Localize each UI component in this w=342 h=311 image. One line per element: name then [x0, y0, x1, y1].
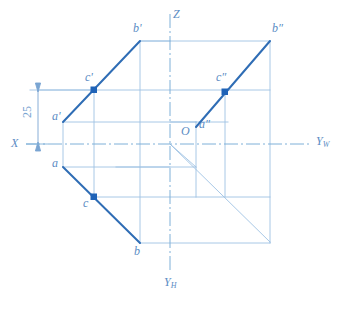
- point-label-b: b: [134, 245, 140, 257]
- segment-a-dprime-b-dprime: [196, 41, 270, 127]
- segment-a-b: [63, 167, 140, 243]
- axis-label-yh: YH: [164, 276, 176, 290]
- point-label-b-prime: b': [133, 22, 142, 34]
- axis-label-yw-sub: W: [323, 140, 330, 149]
- point-label-c-prime: c': [85, 71, 93, 83]
- axis-label-yh-sub: H: [171, 281, 177, 290]
- dimension-arrow-top: [35, 83, 40, 92]
- origin-label: O: [181, 125, 190, 137]
- mitre-line-45-short: [170, 144, 196, 167]
- axis-label-yh-main: Y: [164, 275, 171, 289]
- segment-a-prime-b-prime: [63, 41, 140, 122]
- axis-label-yw: YW: [316, 135, 329, 149]
- construction-lines: [30, 41, 270, 243]
- mitre-line-45: [170, 144, 270, 242]
- marker-c-dprime: [222, 89, 229, 96]
- drawing-canvas: X Z YW YH O 25 a' b' c' a b c a″ b″ c″: [0, 0, 342, 311]
- axis-label-yw-main: Y: [316, 134, 323, 148]
- point-label-a-prime: a': [52, 110, 61, 122]
- dimension-arrow-bottom: [35, 142, 40, 151]
- axis-label-z: Z: [173, 8, 180, 20]
- axis-lines: [26, 14, 312, 272]
- marker-c: [91, 194, 98, 201]
- point-markers: [91, 87, 229, 201]
- point-label-c-dprime: c″: [216, 71, 226, 83]
- dimension-label-25: 25: [21, 106, 33, 118]
- marker-c-prime: [91, 87, 98, 94]
- point-label-a-dprime: a″: [199, 118, 210, 130]
- point-label-c: c: [83, 197, 88, 209]
- axis-label-x: X: [11, 137, 18, 149]
- point-label-a: a: [52, 157, 58, 169]
- point-label-b-dprime: b″: [272, 22, 283, 34]
